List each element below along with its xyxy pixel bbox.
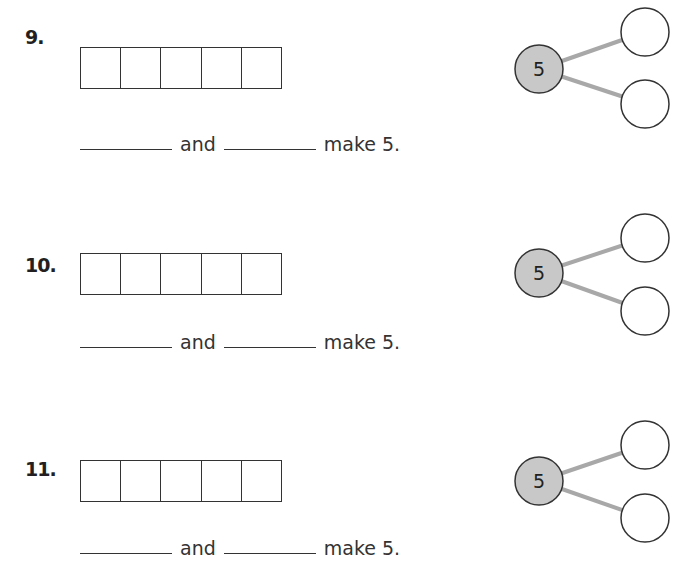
answer-blank-2[interactable] <box>224 346 316 348</box>
frame-cell[interactable] <box>202 254 242 294</box>
number-sentence: and make 5. <box>80 332 400 352</box>
problem-number: 10. <box>25 254 56 276</box>
answer-blank-1[interactable] <box>80 552 172 554</box>
frame-cell[interactable] <box>202 48 242 88</box>
frame-cell[interactable] <box>121 254 161 294</box>
frame-cell[interactable] <box>161 48 201 88</box>
connector-word: and <box>180 538 216 558</box>
number-sentence: and make 5. <box>80 134 400 154</box>
part-circle-bottom[interactable] <box>621 287 669 335</box>
sentence-ending: make 5. <box>324 538 400 558</box>
part-circle-top[interactable] <box>621 214 669 262</box>
five-frame <box>80 253 282 295</box>
frame-cell[interactable] <box>202 461 242 501</box>
connector-word: and <box>180 134 216 154</box>
number-bond: 5 <box>500 0 700 140</box>
part-circle-top[interactable] <box>621 8 669 56</box>
number-bond: 5 <box>500 410 700 555</box>
frame-cell[interactable] <box>242 254 281 294</box>
frame-cell[interactable] <box>242 461 281 501</box>
frame-cell[interactable] <box>242 48 281 88</box>
frame-cell[interactable] <box>121 48 161 88</box>
problem-number: 9. <box>25 26 43 48</box>
whole-value: 5 <box>533 470 545 492</box>
number-sentence: and make 5. <box>80 538 400 558</box>
whole-value: 5 <box>533 262 545 284</box>
frame-cell[interactable] <box>81 48 121 88</box>
part-circle-bottom[interactable] <box>621 494 669 542</box>
problem-number: 11. <box>25 458 56 480</box>
five-frame <box>80 47 282 89</box>
answer-blank-1[interactable] <box>80 148 172 150</box>
frame-cell[interactable] <box>121 461 161 501</box>
part-circle-top[interactable] <box>621 421 669 469</box>
answer-blank-2[interactable] <box>224 148 316 150</box>
frame-cell[interactable] <box>81 461 121 501</box>
connector-word: and <box>180 332 216 352</box>
whole-value: 5 <box>533 58 545 80</box>
frame-cell[interactable] <box>81 254 121 294</box>
answer-blank-1[interactable] <box>80 346 172 348</box>
sentence-ending: make 5. <box>324 332 400 352</box>
number-bond: 5 <box>500 200 700 340</box>
frame-cell[interactable] <box>161 254 201 294</box>
answer-blank-2[interactable] <box>224 552 316 554</box>
five-frame <box>80 460 282 502</box>
part-circle-bottom[interactable] <box>621 80 669 128</box>
frame-cell[interactable] <box>161 461 201 501</box>
sentence-ending: make 5. <box>324 134 400 154</box>
